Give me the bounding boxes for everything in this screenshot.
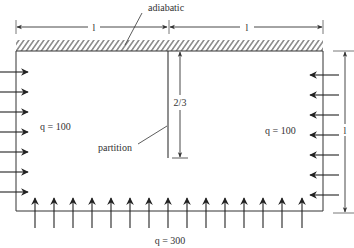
right-length-label: l	[344, 125, 347, 136]
top-right-length-label: l	[246, 22, 249, 33]
right-flux-arrows	[310, 75, 339, 195]
top-dimension-right: l	[169, 20, 323, 34]
left-flux-arrows	[0, 72, 28, 192]
partition-label: partition	[98, 142, 132, 153]
partition-height-label: 2/3	[174, 97, 187, 108]
left-flux-label: q = 100	[40, 121, 71, 132]
top-left-length-label: l	[93, 22, 96, 33]
top-dimension-left: l	[16, 20, 167, 34]
bottom-flux-label: q = 300	[155, 235, 186, 246]
partition-leader-line	[138, 126, 167, 144]
right-flux-label: q = 100	[265, 125, 296, 136]
adiabatic-wall-hatch	[16, 40, 323, 51]
partition-height-dimension: 2/3	[172, 52, 188, 158]
bottom-flux-arrows	[35, 198, 302, 228]
enclosure-diagram: l l adiabatic partition 2/3 l	[0, 0, 354, 248]
adiabatic-label: adiabatic	[148, 2, 185, 13]
